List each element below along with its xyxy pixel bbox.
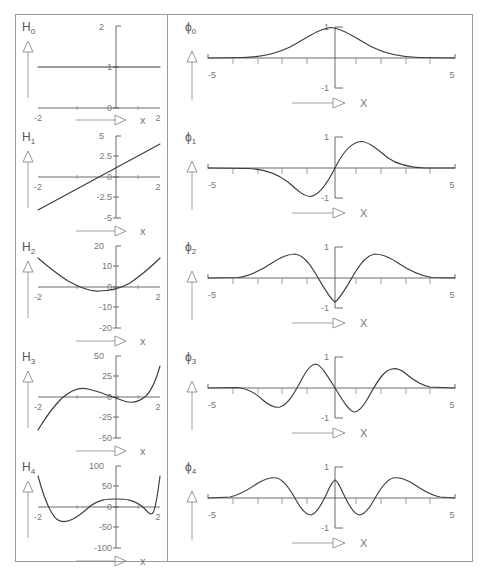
y-tick-label: 0 [107, 172, 112, 182]
x-tick-label: -2 [34, 182, 42, 192]
y-tick-label: 1 [324, 352, 329, 362]
x-tick-label: -5 [208, 510, 216, 520]
y-tick-label: -10 [99, 302, 112, 312]
x-tick-label: -5 [208, 400, 216, 410]
y-tick-label: 10 [102, 261, 112, 271]
x-ticks-H3: -2 2 [34, 395, 161, 412]
x-axis-label-H0: x [140, 114, 146, 126]
y-axis-arrow-H1 [23, 151, 33, 208]
x-tick-label: -2 [34, 402, 42, 412]
x-axis-label-H2: x [140, 335, 146, 347]
x-axis-label-phi4: X [360, 537, 368, 549]
x-ticks-phi1: -5 5 [208, 168, 455, 190]
y-tick-label: 1 [324, 242, 329, 252]
x-tick-label: 5 [449, 180, 454, 190]
x-axis-label-H1: x [140, 225, 146, 237]
y-tick-label: 0 [107, 103, 112, 113]
y-axis-arrow-phi2 [187, 271, 197, 320]
x-tick-label: -2 [34, 512, 42, 522]
panel-H0: H0 2 1 0 -2 2 x [22, 20, 161, 126]
x-axis-arrow-phi0: X [292, 97, 368, 109]
x-axis-label-phi1: X [360, 207, 368, 219]
x-tick-label: 2 [155, 292, 160, 302]
x-axis-arrow-phi2: X [292, 317, 368, 329]
panel-H4: H4 100 50 0 -50 -100 -2 2 [22, 460, 161, 567]
x-axis-label-H4: x [140, 555, 146, 567]
y-axis-arrow-H3 [23, 371, 33, 428]
x-tick-label: -2 [34, 113, 42, 123]
x-ticks-H4: -2 2 [34, 505, 161, 522]
y-tick-label: 2 [99, 22, 104, 32]
panel-phi4: ϕ4 1 -1 -5 5 X [185, 460, 455, 549]
x-tick-label: 5 [449, 400, 454, 410]
y-tick-label: -100 [94, 543, 112, 553]
x-axis-arrow-phi4: X [292, 537, 368, 549]
y-axis-arrow-phi0 [187, 51, 197, 100]
x-axis-label-phi0: X [360, 97, 368, 109]
x-tick-label: 2 [155, 512, 160, 522]
y-tick-label: 2.5 [99, 151, 112, 161]
y-tick-label: -1 [321, 193, 329, 203]
y-tick-label: -50 [99, 433, 112, 443]
x-tick-label: 2 [155, 402, 160, 412]
y-tick-label: -20 [99, 323, 112, 333]
y-tick-label: 1 [324, 462, 329, 472]
x-tick-label: 5 [449, 290, 454, 300]
x-axis-arrow-phi3: X [292, 427, 368, 439]
y-tick-label: -1 [321, 303, 329, 313]
curve-H4 [38, 476, 160, 522]
y-tick-label: -5 [104, 213, 112, 223]
y-tick-label: 20 [94, 241, 104, 251]
panel-label-phi4: ϕ4 [185, 460, 197, 476]
x-tick-label: 5 [449, 70, 454, 80]
panel-H2: H2 20 10 0 -10 -20 -2 2 [22, 240, 161, 347]
panel-phi1: ϕ1 1 -1 -5 5 X [185, 130, 455, 219]
x-ticks-H2: -2 2 [34, 285, 161, 302]
panel-phi2: ϕ2 1 -1 -5 5 X [185, 240, 455, 329]
x-axis-label-phi2: X [360, 317, 368, 329]
y-tick-label: 50 [94, 351, 104, 361]
y-tick-label: -1 [321, 523, 329, 533]
x-tick-label: 2 [155, 182, 160, 192]
x-axis-arrow-H3: x [76, 445, 146, 457]
y-tick-label: 5 [99, 131, 104, 141]
y-tick-label: -50 [99, 522, 112, 532]
x-axis-label-phi3: X [360, 427, 368, 439]
panel-phi3: ϕ3 1 -1 -5 5 X [185, 350, 455, 439]
x-ticks-phi2: -5 5 [208, 278, 455, 300]
x-tick-label: -2 [34, 292, 42, 302]
y-tick-label: 100 [89, 461, 104, 471]
x-axis-label-H3: x [140, 445, 146, 457]
x-axis-arrow-H1: x [76, 225, 146, 237]
hermite-wavefunction-figure: H0 2 1 0 -2 2 x [0, 0, 488, 580]
y-axis-arrow-phi4 [187, 491, 197, 540]
y-tick-label: 0 [107, 502, 112, 512]
curve-phi4 [208, 478, 455, 515]
y-tick-label: 50 [102, 481, 112, 491]
x-tick-label: 2 [155, 113, 160, 123]
y-tick-label: -1 [321, 413, 329, 423]
panel-label-H2: H2 [22, 240, 36, 256]
x-axis-arrow-phi1: X [292, 207, 368, 219]
y-tick-label: -25 [99, 412, 112, 422]
y-axis-arrow-H0 [23, 41, 33, 98]
y-tick-label: -2.5 [96, 192, 112, 202]
panel-H3: H3 50 25 0 -25 -50 -2 2 [22, 350, 161, 457]
x-ticks-phi3: -5 5 [208, 388, 455, 410]
panel-label-phi1: ϕ1 [185, 130, 197, 146]
curve-phi0 [208, 28, 455, 59]
panel-label-H3: H3 [22, 350, 36, 366]
panel-label-H0: H0 [22, 20, 36, 36]
x-tick-label: 5 [449, 510, 454, 520]
panel-phi0: ϕ0 1 -1 -5 5 X [185, 20, 455, 109]
y-tick-label: 25 [102, 371, 112, 381]
panel-label-H1: H1 [22, 130, 36, 146]
panel-label-phi2: ϕ2 [185, 240, 197, 256]
x-axis-arrow-H2: x [76, 335, 146, 347]
curve-H2 [38, 258, 160, 291]
y-tick-label: 1 [324, 132, 329, 142]
x-tick-label: -5 [208, 70, 216, 80]
panel-label-phi0: ϕ0 [185, 20, 197, 36]
y-axis-arrow-phi3 [187, 381, 197, 430]
panel-label-phi3: ϕ3 [185, 350, 197, 366]
